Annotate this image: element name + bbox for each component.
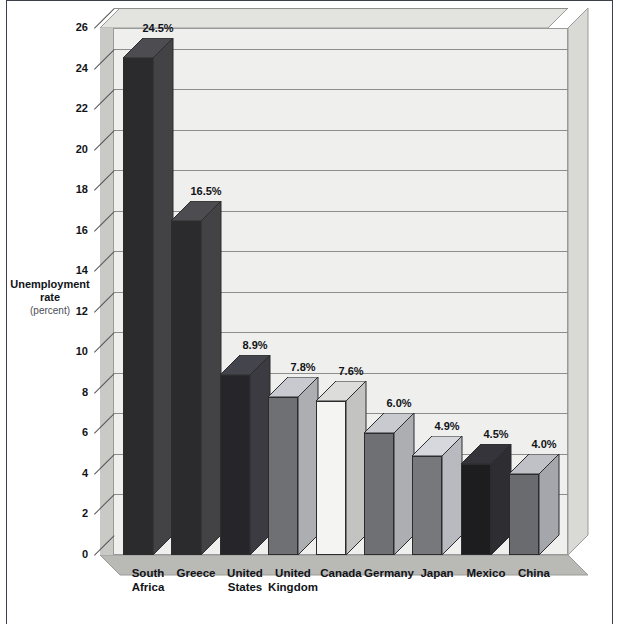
bar-top-face [509, 454, 560, 475]
bar-top-face [268, 377, 319, 398]
y-tick-label: 22 [54, 103, 88, 114]
bar-value-label: 8.9% [225, 339, 285, 351]
x-category-label: China [494, 566, 574, 580]
bar-top-face [123, 38, 174, 59]
y-axis-title-line-1: Unemployment [6, 278, 94, 291]
bar [123, 38, 173, 555]
bar-value-label: 16.5% [176, 185, 236, 197]
bar-top-face [220, 355, 271, 376]
bar-value-label: 4.0% [514, 438, 574, 450]
y-tick-label: 14 [54, 265, 88, 276]
bar-front-face [220, 375, 250, 555]
gridline [114, 89, 568, 90]
y-tick-label: 6 [54, 427, 88, 438]
bar-front-face [412, 456, 442, 555]
chart-page: 26242220181614121086420 Unemployment rat… [0, 0, 620, 624]
bar [412, 436, 462, 555]
chart-axis-wall [100, 28, 114, 555]
bar [268, 377, 318, 555]
bar [364, 413, 414, 555]
bar-front-face [316, 401, 346, 555]
bar [171, 201, 221, 555]
y-axis-title-line-2: rate [6, 291, 94, 304]
bar [316, 381, 366, 555]
bar-top-face [364, 413, 415, 434]
bar-top-face [171, 201, 222, 222]
bar-value-label: 7.6% [321, 365, 381, 377]
gridline [114, 49, 568, 50]
bar-value-label: 24.5% [128, 22, 188, 34]
y-tick-label: 20 [54, 144, 88, 155]
bar-front-face [461, 464, 491, 555]
bar [461, 444, 511, 555]
y-tick-label: 10 [54, 346, 88, 357]
bar-value-label: 6.0% [369, 397, 429, 409]
bar [509, 454, 559, 555]
y-tick-label: 26 [54, 22, 88, 33]
bar-front-face [123, 58, 153, 555]
y-axis-title-line-3: (percent) [6, 304, 94, 317]
bar-side-face [201, 201, 222, 556]
gridline [114, 8, 568, 9]
unemployment-rate-bar-chart: 26242220181614121086420 Unemployment rat… [0, 0, 620, 624]
bar-top-face [412, 436, 463, 457]
y-tick-label: 2 [54, 508, 88, 519]
y-tick-label: 0 [54, 549, 88, 560]
y-axis-title: Unemployment rate (percent) [6, 278, 94, 317]
bar [220, 355, 270, 555]
bar-front-face [171, 221, 201, 555]
chart-wall-right-face [568, 8, 588, 555]
y-tick-label: 24 [54, 63, 88, 74]
bar-front-face [509, 474, 539, 555]
gridline [114, 130, 568, 131]
bar-top-face [316, 381, 367, 402]
bar-front-face [268, 397, 298, 555]
gridline [114, 170, 568, 171]
y-tick-label: 4 [54, 468, 88, 479]
y-tick-label: 8 [54, 387, 88, 398]
bar-top-face [461, 444, 512, 465]
y-tick-label: 16 [54, 225, 88, 236]
bar-front-face [364, 433, 394, 555]
y-tick-label: 18 [54, 184, 88, 195]
